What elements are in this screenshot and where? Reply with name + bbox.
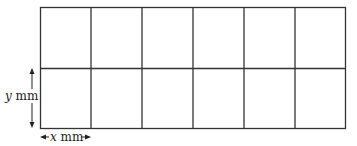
grid-diagram: y mm x mm [0, 0, 357, 146]
height-label: y mm [4, 89, 39, 103]
rectangle-grid [40, 7, 346, 129]
width-label: x mm [50, 130, 84, 144]
